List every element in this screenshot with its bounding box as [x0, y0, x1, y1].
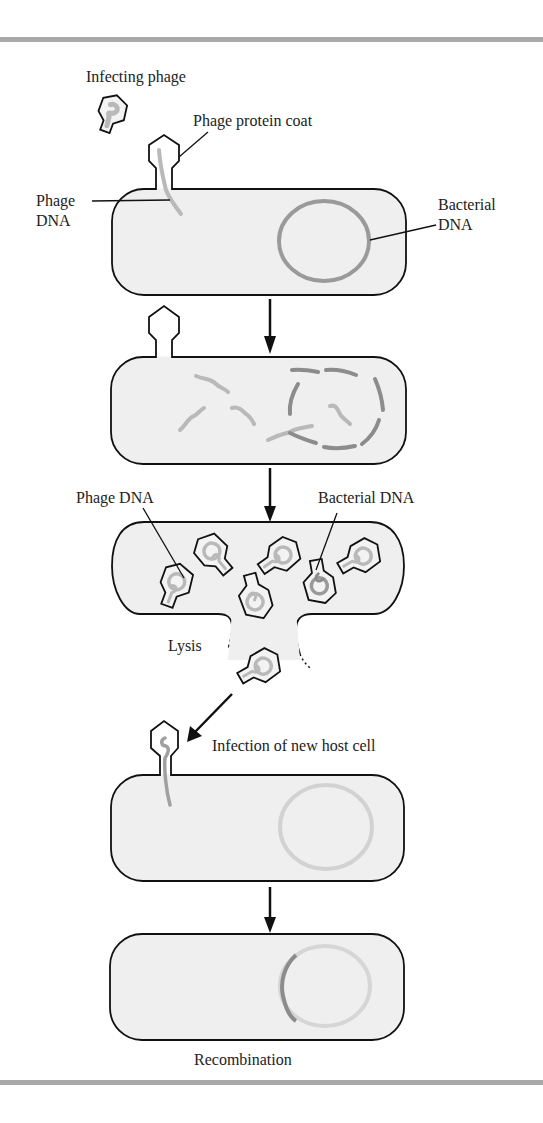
- transduction-diagram: Infecting phage Phage protein coat Phage…: [0, 0, 543, 1123]
- empty-phage-coat-icon: [149, 306, 179, 358]
- label-phage-protein-coat: Phage protein coat: [193, 112, 313, 130]
- label-phage-dna-line2: DNA: [36, 212, 71, 229]
- stage-4-new-infection: Infection of new host cell: [111, 721, 404, 881]
- label-lysis: Lysis: [168, 637, 202, 655]
- label-phage-dna-2: Phage DNA: [76, 489, 154, 507]
- stage-1-infection: Infecting phage Phage protein coat Phage…: [36, 68, 496, 295]
- arrow-down-2-icon: [264, 468, 276, 522]
- label-bacterial-dna-2: Bacterial DNA: [318, 489, 415, 506]
- arrow-down-4-icon: [264, 887, 276, 933]
- free-phage-icon: [93, 91, 131, 136]
- label-infecting-phage: Infecting phage: [86, 68, 186, 86]
- stage-2-dna-fragmentation: [111, 306, 406, 464]
- label-phage-dna-line1: Phage: [36, 192, 75, 210]
- stage-3-phage-assembly: Phage DNA Bacterial DNA: [76, 489, 415, 692]
- arrow-down-1-icon: [264, 299, 276, 354]
- label-bacterial-dna-line2: DNA: [438, 216, 473, 233]
- label-recombination: Recombination: [194, 1051, 292, 1068]
- stage-5-recombination: Recombination: [110, 934, 404, 1068]
- bacterial-cell-5: [110, 934, 404, 1040]
- label-bacterial-dna-line1: Bacterial: [438, 196, 496, 213]
- bacterial-cell-2: [111, 357, 406, 464]
- arrow-diagonal-icon: [187, 694, 232, 742]
- figure-frame: Infecting phage Phage protein coat Phage…: [0, 0, 543, 1123]
- bacterial-cell-4: [111, 775, 404, 881]
- label-infection-new-host: Infection of new host cell: [212, 737, 376, 754]
- bacterial-cell-1: [112, 189, 406, 295]
